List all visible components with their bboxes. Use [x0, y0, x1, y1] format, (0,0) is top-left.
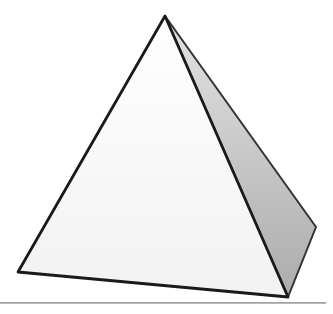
figure-canvas: [0, 0, 333, 314]
pyramid-illustration: [0, 0, 333, 314]
